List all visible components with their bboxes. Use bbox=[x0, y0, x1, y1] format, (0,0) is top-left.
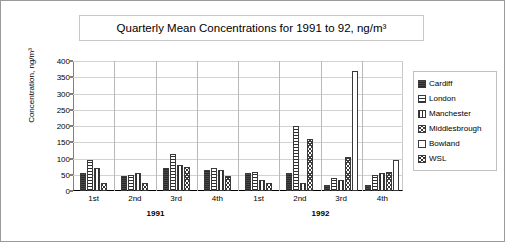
bar[interactable] bbox=[293, 126, 299, 191]
bar[interactable] bbox=[386, 172, 392, 192]
bar[interactable] bbox=[331, 178, 337, 191]
legend-item-label: Middlesbrough bbox=[429, 124, 481, 133]
bar[interactable] bbox=[121, 176, 127, 191]
bar[interactable] bbox=[324, 185, 330, 192]
legend-item-label: Cardiff bbox=[429, 79, 452, 88]
x-axis-labels: 1st2nd3rd4th1st2nd3rd4th bbox=[73, 194, 403, 208]
bar[interactable] bbox=[266, 183, 272, 191]
y-axis-tick-label: 200 bbox=[57, 122, 70, 131]
bar[interactable] bbox=[252, 172, 258, 192]
bar[interactable] bbox=[300, 183, 306, 191]
legend-item-label: Manchester bbox=[429, 109, 471, 118]
bar[interactable] bbox=[307, 139, 313, 191]
bar[interactable] bbox=[101, 183, 107, 191]
bar[interactable] bbox=[87, 160, 93, 191]
bar[interactable] bbox=[259, 180, 265, 191]
bar-group bbox=[238, 61, 279, 191]
bar[interactable] bbox=[211, 168, 217, 191]
bar-group bbox=[362, 61, 403, 191]
bar[interactable] bbox=[372, 175, 378, 191]
legend-item[interactable]: London bbox=[418, 91, 493, 106]
bar[interactable] bbox=[142, 183, 148, 191]
bar[interactable] bbox=[245, 173, 251, 191]
bar-group bbox=[321, 61, 362, 191]
bar[interactable] bbox=[128, 175, 134, 191]
y-axis-title: Concentration, ng/m³ bbox=[27, 31, 36, 141]
bar[interactable] bbox=[177, 165, 183, 191]
y-axis-tick-label: 350 bbox=[57, 73, 70, 82]
chart-frame: Quarterly Mean Concentrations for 1991 t… bbox=[0, 0, 505, 242]
legend-item[interactable]: Cardiff bbox=[418, 76, 493, 91]
bar[interactable] bbox=[379, 173, 385, 191]
bar-group bbox=[114, 61, 155, 191]
bar[interactable] bbox=[218, 170, 224, 191]
bar-group bbox=[279, 61, 320, 191]
x-axis-tick-label: 1st bbox=[253, 194, 264, 203]
x-axis-year-labels: 19911992 bbox=[73, 209, 403, 223]
bar[interactable] bbox=[204, 170, 210, 191]
y-axis-tick-label: 150 bbox=[57, 138, 70, 147]
bar[interactable] bbox=[393, 160, 399, 191]
x-axis-tick-label: 4th bbox=[377, 194, 388, 203]
x-axis-tick-label: 3rd bbox=[335, 194, 347, 203]
legend-item-label: London bbox=[429, 94, 456, 103]
x-axis-tick-label: 3rd bbox=[170, 194, 182, 203]
legend-swatch-icon bbox=[418, 95, 426, 103]
legend-swatch-icon bbox=[418, 80, 426, 88]
legend-swatch-icon bbox=[418, 110, 426, 118]
bar-group bbox=[73, 61, 114, 191]
bar[interactable] bbox=[80, 173, 86, 191]
y-axis-tick-label: 300 bbox=[57, 89, 70, 98]
bar[interactable] bbox=[365, 185, 371, 192]
legend-item-label: Bowland bbox=[429, 139, 460, 148]
bar[interactable] bbox=[345, 157, 351, 191]
legend-swatch-icon bbox=[418, 125, 426, 133]
legend-item[interactable]: Middlesbrough bbox=[418, 121, 493, 136]
legend-item[interactable]: Manchester bbox=[418, 106, 493, 121]
bar[interactable] bbox=[352, 71, 358, 191]
x-axis-tick-label: 2nd bbox=[128, 194, 141, 203]
bar[interactable] bbox=[135, 173, 141, 191]
bar[interactable] bbox=[225, 176, 231, 191]
bar-group bbox=[197, 61, 238, 191]
bar-group bbox=[156, 61, 197, 191]
legend-swatch-icon bbox=[418, 140, 426, 148]
bar[interactable] bbox=[338, 180, 344, 191]
bar[interactable] bbox=[286, 173, 292, 191]
chart-title: Quarterly Mean Concentrations for 1991 t… bbox=[79, 15, 424, 41]
legend-item[interactable]: Bowland bbox=[418, 136, 493, 151]
plot-wrap: 050100150200250300350400 bbox=[73, 61, 403, 191]
x-axis-tick-label: 2nd bbox=[293, 194, 306, 203]
y-axis-tick-label: 100 bbox=[57, 154, 70, 163]
chart-legend: CardiffLondonManchesterMiddlesbroughBowl… bbox=[413, 71, 497, 171]
x-axis-year-label: 1992 bbox=[312, 209, 330, 218]
bar[interactable] bbox=[184, 167, 190, 191]
bar[interactable] bbox=[163, 168, 169, 191]
y-axis-tick-label: 250 bbox=[57, 105, 70, 114]
x-axis-year-label: 1991 bbox=[147, 209, 165, 218]
y-axis-tick-label: 400 bbox=[57, 57, 70, 66]
y-axis-tick-label: 50 bbox=[61, 170, 70, 179]
legend-item[interactable]: WSL bbox=[418, 151, 493, 166]
x-axis-tick-label: 4th bbox=[212, 194, 223, 203]
bar[interactable] bbox=[170, 154, 176, 191]
legend-swatch-icon bbox=[418, 155, 426, 163]
x-axis-tick-label: 1st bbox=[88, 194, 99, 203]
bar[interactable] bbox=[94, 168, 100, 191]
legend-item-label: WSL bbox=[429, 154, 446, 163]
